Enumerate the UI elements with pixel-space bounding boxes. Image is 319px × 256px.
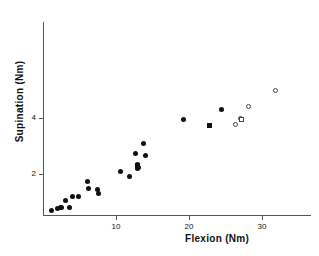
data-point-open-square [239, 117, 244, 122]
y-axis-title: Supination (Nm) [14, 47, 25, 157]
x-tick-label: 30 [252, 222, 272, 231]
data-point-filled-circle [67, 205, 72, 210]
data-point-filled-circle [141, 141, 146, 146]
y-tick-mark [39, 118, 44, 119]
x-tick-mark [116, 215, 117, 220]
data-point-filled-circle [143, 153, 148, 158]
x-axis-line [43, 215, 311, 216]
x-tick-label: 20 [179, 222, 199, 231]
data-point-filled-circle [70, 194, 75, 199]
data-point-filled-circle [85, 179, 90, 184]
x-tick-label: 10 [106, 222, 126, 231]
data-point-filled-circle [63, 198, 68, 203]
data-point-open-circle [273, 88, 278, 93]
data-point-filled-circle [133, 151, 138, 156]
data-point-filled-circle [96, 191, 101, 196]
data-point-open-circle [233, 122, 238, 127]
data-point-filled-circle [59, 205, 64, 210]
data-point-filled-square [135, 163, 140, 168]
data-point-open-circle [246, 104, 251, 109]
data-point-filled-circle [118, 169, 123, 174]
data-point-filled-circle [49, 208, 54, 213]
data-point-filled-circle [86, 186, 91, 191]
data-point-filled-circle [76, 194, 81, 199]
data-point-filled-circle [127, 174, 132, 179]
y-tick-mark [39, 174, 44, 175]
x-tick-mark [189, 215, 190, 220]
chart-plot-area: 24 102030 Supination (Nm) Flexion (Nm) [0, 0, 319, 256]
x-tick-mark [262, 215, 263, 220]
x-axis-title: Flexion (Nm) [185, 233, 249, 244]
data-point-filled-circle [219, 107, 224, 112]
data-point-filled-square [207, 123, 212, 128]
y-tick-label: 2 [18, 169, 36, 178]
data-point-filled-circle [181, 117, 186, 122]
scatter-plot-figure: 24 102030 Supination (Nm) Flexion (Nm) [0, 0, 319, 256]
